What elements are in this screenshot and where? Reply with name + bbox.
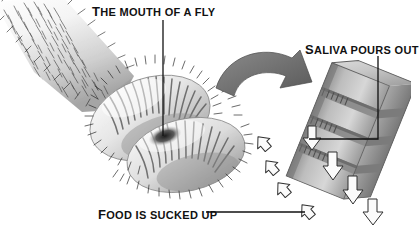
food-arrow-2	[260, 156, 283, 179]
curved-transfer-arrow	[216, 50, 312, 96]
label-food-rest: OOD IS SUCKED UP	[106, 209, 217, 221]
label-saliva-rest: ALIVA POURS OUT	[314, 44, 419, 56]
label-mouth-of-a-fly: THE MOUTH OF A FLY	[92, 2, 215, 20]
label-food-lead: F	[98, 207, 106, 222]
label-food-is-sucked-up: FOOD IS SUCKED UP	[98, 205, 217, 223]
label-mouth-rest: HE MOUTH OF A FLY	[100, 6, 215, 18]
food-arrow-1	[252, 132, 275, 155]
label-mouth-lead: T	[92, 4, 100, 19]
food-arrow-5	[285, 113, 305, 133]
label-saliva-lead: S	[305, 42, 314, 57]
saliva-arrow-4	[363, 199, 383, 225]
label-saliva-pours-out: SALIVA POURS OUT	[305, 40, 419, 58]
food-arrow-4	[296, 200, 319, 223]
food-arrow-3	[272, 178, 295, 201]
